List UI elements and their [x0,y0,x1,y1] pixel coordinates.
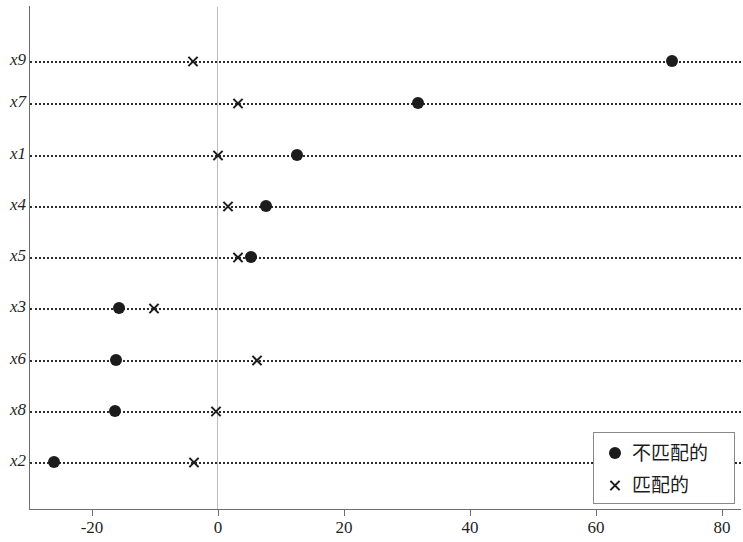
x-axis-tick-label: 20 [314,518,374,537]
x-axis-tick [344,509,345,516]
legend-item-matched: 匹配的 [594,469,734,501]
data-point-cross [232,251,245,264]
data-point-dot [245,251,257,263]
cross-marker-icon [602,469,628,501]
x-axis-tick [596,509,597,516]
data-point-dot [412,97,424,109]
data-point-cross [212,149,225,162]
data-point-cross [147,302,160,315]
y-axis-tick-label: x6 [0,350,26,367]
y-axis-tick-label-wrap: x6 [0,350,26,368]
x-axis-tick [722,509,723,516]
y-axis-tick-label-wrap: x1 [0,145,26,163]
y-axis-tick-label: x4 [0,196,26,213]
gridline-row [30,206,741,208]
gridline-row [30,360,741,362]
x-axis-tick-label: 60 [566,518,626,537]
x-axis-line [29,509,741,510]
x-axis-tick-label: -20 [62,518,122,537]
y-axis-tick-label: x3 [0,298,26,315]
x-axis-tick-label: 0 [188,518,248,537]
y-axis-tick-label-wrap: x2 [0,452,26,470]
y-axis-tick-label-wrap: x9 [0,51,26,69]
y-axis-tick-label-wrap: x3 [0,298,26,316]
data-point-cross [222,200,235,213]
y-axis-tick-label: x7 [0,93,26,110]
y-axis-tick-label: x5 [0,247,26,264]
data-point-cross [251,354,264,367]
data-point-dot [48,456,60,468]
y-axis-tick-label-wrap: x5 [0,247,26,265]
scatter-chart: x9x7x1x4x5x3x6x8x2 -20020406080 不匹配的 匹配的 [0,0,743,542]
x-axis-tick-label: 40 [440,518,500,537]
gridline-row [30,103,741,105]
gridline-row [30,155,741,157]
data-point-dot [109,405,121,417]
data-point-cross [210,405,223,418]
data-point-dot [110,354,122,366]
gridline-row [30,411,741,413]
legend-item-unmatched: 不匹配的 [594,437,734,469]
data-point-dot [666,55,678,67]
y-axis-tick-label-wrap: x7 [0,93,26,111]
filled-circle-icon [602,437,628,469]
gridline-row [30,257,741,259]
chart-legend: 不匹配的 匹配的 [593,432,735,504]
y-axis-tick-label: x1 [0,145,26,162]
y-axis-tick-label: x8 [0,401,26,418]
legend-item-label: 匹配的 [632,472,689,498]
data-point-cross [188,456,201,469]
y-axis-tick-label: x2 [0,452,26,469]
y-axis-tick-label-wrap: x4 [0,196,26,214]
x-axis-tick-label: 80 [692,518,743,537]
y-axis-tick-label: x9 [0,51,26,68]
x-axis-tick [470,509,471,516]
data-point-dot [291,149,303,161]
data-point-cross [232,97,245,110]
data-point-cross [186,55,199,68]
gridline-row [30,308,741,310]
legend-item-label: 不匹配的 [632,440,708,466]
x-axis-tick [218,509,219,516]
data-point-dot [260,200,272,212]
data-point-dot [113,302,125,314]
x-axis-tick [92,509,93,516]
gridline-row [30,61,741,63]
y-axis-tick-label-wrap: x8 [0,401,26,419]
